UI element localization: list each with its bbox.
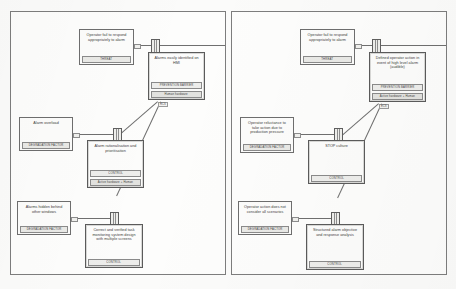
node-title: Alarm overload (33, 121, 59, 126)
node-title: Alarms hidden behind other windows (21, 205, 67, 214)
panel-left: Operator fail to respond appropriately t… (10, 11, 226, 275)
control-stop-culture[interactable]: STOP culture CONTROL (308, 140, 365, 184)
node-body: Defined operator action in event of high… (370, 53, 425, 83)
node-body: STOP culture (309, 141, 364, 174)
node-title: Operator reluctance to take action due t… (244, 121, 290, 135)
node-body: Correct and verified task monitoring sys… (86, 225, 142, 258)
band-barrier-type: Active hardware + Human (372, 93, 423, 100)
link-chip (294, 133, 301, 138)
link-chip (71, 217, 78, 222)
band-control: CONTROL (311, 175, 362, 182)
band-control-type: Active hardware + Human (90, 179, 141, 186)
connector-tag-ecs-1: ECS (379, 104, 389, 109)
barrier-defined-operator-action[interactable]: Defined operator action in event of high… (369, 52, 426, 102)
link-chip (355, 44, 362, 49)
spine-line-top (159, 45, 225, 46)
threat-operator-fail-respond[interactable]: Operator fail to respond appropriately t… (79, 29, 134, 65)
node-body: Structured alarm objective and response … (307, 225, 363, 260)
band-degradation-factor: DEGRADATION FACTOR (22, 142, 70, 149)
node-body: Alarms easily identified on HMI (149, 53, 204, 81)
band-prevention-barrier: PREVENTION BARRIER (372, 84, 423, 91)
band-degradation-factor: DEGRADATION FACTOR (20, 226, 68, 233)
node-title: Structured alarm objective and response … (310, 228, 360, 237)
node-body: Operator fail to respond appropriately t… (80, 30, 133, 55)
node-title: Operator fail to respond appropriately t… (304, 33, 351, 42)
barrier-alarms-identified-hmi[interactable]: Alarms easily identified on HMI PREVENTI… (148, 52, 205, 100)
node-title: STOP culture (325, 144, 348, 149)
band-degradation-factor: DEGRADATION FACTOR (241, 226, 289, 233)
band-degradation-factor: DEGRADATION FACTOR (243, 144, 291, 151)
link-chip (73, 133, 80, 138)
spine-line-top (380, 45, 446, 46)
node-body: Operator action does not consider all sc… (239, 202, 291, 225)
control-monitoring-system-design[interactable]: Correct and verified task monitoring sys… (85, 224, 143, 268)
node-body: Alarm overload (20, 118, 72, 141)
degradation-alarm-overload[interactable]: Alarm overload DEGRADATION FACTOR (19, 117, 73, 151)
link-chip (292, 217, 299, 222)
threat-operator-fail-respond[interactable]: Operator fail to respond appropriately t… (300, 29, 355, 65)
band-threat: THREAT (82, 56, 131, 63)
band-control: CONTROL (90, 170, 141, 177)
node-title: Defined operator action in event of high… (373, 56, 422, 70)
band-prevention-barrier: PREVENTION BARRIER (151, 82, 202, 89)
node-body: Operator reluctance to take action due t… (241, 118, 293, 143)
link-chip (134, 44, 141, 49)
node-title: Operator fail to respond appropriately t… (83, 33, 130, 42)
band-control: CONTROL (88, 259, 140, 266)
degradation-alarms-hidden[interactable]: Alarms hidden behind other windows DEGRA… (17, 201, 71, 235)
diagram-canvas: Operator fail to respond appropriately t… (0, 0, 456, 289)
node-body: Alarms hidden behind other windows (18, 202, 70, 225)
degradation-action-scenarios[interactable]: Operator action does not consider all sc… (238, 201, 292, 235)
band-barrier-type: Human hardware (151, 91, 202, 98)
connector-tag-rcs-1: RCS (158, 102, 168, 107)
panel-right: Operator fail to respond appropriately t… (231, 11, 447, 275)
control-alarm-rationalisation[interactable]: Alarm rationalisation and prioritisation… (87, 140, 144, 188)
node-title: Operator action does not consider all sc… (242, 205, 288, 214)
node-title: Correct and verified task monitoring sys… (89, 228, 139, 242)
control-structured-alarm-analysis[interactable]: Structured alarm objective and response … (306, 224, 364, 270)
band-threat: THREAT (303, 56, 352, 63)
node-title: Alarm rationalisation and prioritisation (91, 144, 140, 153)
band-control: CONTROL (309, 261, 361, 268)
node-title: Alarms easily identified on HMI (152, 56, 201, 65)
degradation-operator-reluctance[interactable]: Operator reluctance to take action due t… (240, 117, 294, 153)
node-body: Operator fail to respond appropriately t… (301, 30, 354, 55)
node-body: Alarm rationalisation and prioritisation (88, 141, 143, 169)
